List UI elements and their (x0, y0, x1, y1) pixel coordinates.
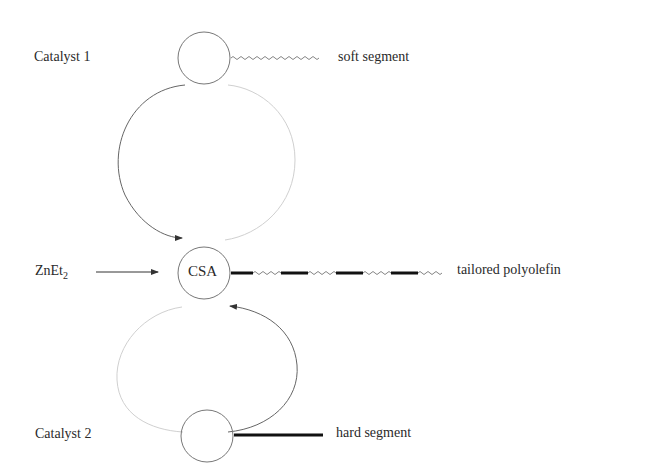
tailored-polyolefin-chain (231, 272, 442, 275)
soft-segment-label: soft segment (338, 49, 409, 65)
catalyst2-label: Catalyst 2 (35, 426, 91, 442)
hard-segment-label: hard segment (336, 425, 411, 441)
upper-loop-right-arc (225, 85, 295, 240)
tailored-polyolefin-label: tailored polyolefin (457, 262, 561, 278)
lower-loop-right-arc (228, 306, 297, 432)
diagram-canvas (0, 0, 658, 475)
upper-loop-left-arc (118, 85, 185, 238)
lower-loop-left-arc (117, 307, 183, 432)
catalyst1-label: Catalyst 1 (34, 49, 90, 65)
catalyst2-circle (181, 410, 233, 462)
znet2-label: ZnEt2 (35, 263, 68, 281)
znet2-base: ZnEt (35, 263, 63, 278)
znet2-subscript: 2 (63, 270, 68, 281)
catalyst1-circle (178, 32, 230, 84)
soft-segment-chain (231, 57, 319, 60)
csa-label: CSA (188, 263, 217, 280)
